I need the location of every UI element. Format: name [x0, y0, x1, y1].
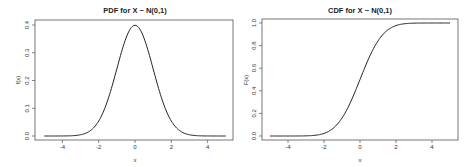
pdf-plot-frame [35, 20, 233, 140]
x-tick-label: -2 [96, 144, 102, 150]
figure: PDF for X ~ N(0,1) -4-2024 0.00.10.20.30… [0, 0, 475, 167]
x-tick-label: 2 [394, 144, 398, 150]
x-tick-label: -4 [285, 144, 291, 150]
x-tick-label: -4 [60, 144, 66, 150]
cdf-y-ticks: 0.00.20.40.60.81.0 [251, 18, 262, 140]
cdf-title: CDF for X ~ N(0,1) [328, 6, 392, 15]
cdf-x-ticks: -4-2024 [285, 140, 434, 150]
y-tick-label: 0.2 [24, 76, 30, 85]
cdf-curve [270, 23, 450, 136]
x-tick-label: 0 [133, 144, 137, 150]
x-tick-label: -2 [321, 144, 327, 150]
y-tick-label: 0.1 [24, 103, 30, 112]
y-tick-label: 1.0 [251, 18, 257, 27]
pdf-x-label: x [134, 157, 137, 163]
x-tick-label: 4 [430, 144, 434, 150]
y-tick-label: 0.2 [251, 109, 257, 118]
x-tick-label: 4 [206, 144, 210, 150]
pdf-x-ticks: -4-2024 [60, 140, 210, 150]
pdf-y-ticks: 0.00.10.20.30.4 [24, 20, 35, 140]
pdf-curve [44, 25, 226, 136]
y-tick-label: 0.8 [251, 41, 257, 50]
y-tick-label: 0.0 [24, 131, 30, 140]
x-tick-label: 2 [170, 144, 174, 150]
cdf-y-label: F(x) [243, 75, 249, 86]
x-tick-label: 0 [358, 144, 362, 150]
pdf-y-label: f(x) [15, 76, 21, 85]
pdf-title: PDF for X ~ N(0,1) [103, 6, 167, 15]
y-tick-label: 0.4 [251, 86, 257, 95]
y-tick-label: 0.3 [24, 48, 30, 57]
y-tick-label: 0.4 [24, 20, 30, 29]
cdf-plot: CDF for X ~ N(0,1) -4-2024 0.00.20.40.60… [243, 6, 458, 163]
y-tick-label: 0.6 [251, 63, 257, 72]
cdf-x-label: x [359, 157, 362, 163]
y-tick-label: 0.0 [251, 131, 257, 140]
pdf-plot: PDF for X ~ N(0,1) -4-2024 0.00.10.20.30… [15, 6, 233, 163]
